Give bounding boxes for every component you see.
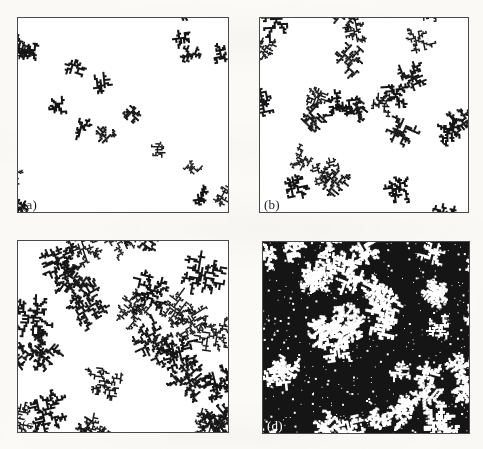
panel-c: (c)	[17, 240, 229, 433]
panel-b-canvas	[260, 18, 468, 212]
panel-d: (d)	[262, 241, 470, 434]
panel-c-label: (c)	[22, 418, 37, 431]
panel-d-label: (d)	[267, 419, 283, 432]
panel-a-label: (a)	[22, 198, 37, 211]
panel-a-canvas	[18, 18, 228, 212]
panel-a: (a)	[17, 17, 229, 213]
panel-b: (b)	[259, 17, 469, 213]
figure-root: (a) (b) (c) (d)	[0, 0, 483, 449]
panel-b-label: (b)	[264, 198, 280, 211]
panel-d-canvas	[263, 242, 469, 433]
panel-c-canvas	[18, 241, 228, 432]
